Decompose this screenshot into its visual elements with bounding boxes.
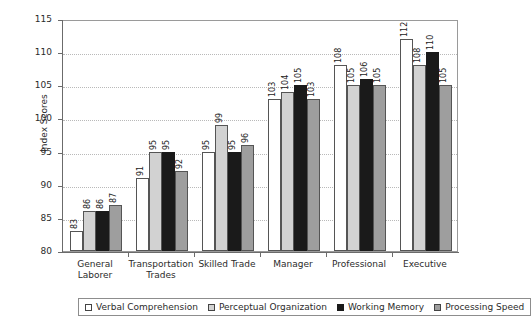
x-category-label: Transportation Trades xyxy=(128,259,194,281)
y-tick-label: 110 xyxy=(22,48,52,57)
bar-value-label: 105 xyxy=(295,68,303,83)
x-category-label: Manager xyxy=(260,259,326,270)
bar[interactable] xyxy=(228,152,241,251)
x-tick-mark xyxy=(392,252,393,257)
bar-group: 83868687 xyxy=(70,19,122,251)
y-tick-mark xyxy=(58,186,62,187)
y-tick-mark xyxy=(58,53,62,54)
gridline xyxy=(63,220,457,221)
bar-value-label: 103 xyxy=(308,81,316,96)
bar-value-label: 106 xyxy=(361,61,369,76)
bar[interactable] xyxy=(334,65,347,251)
bar[interactable] xyxy=(426,52,439,251)
x-category-label: Executive xyxy=(392,259,458,270)
legend-label: Working Memory xyxy=(348,302,424,312)
bar[interactable] xyxy=(400,39,413,251)
bar[interactable] xyxy=(162,152,175,251)
bar-value-label: 96 xyxy=(242,133,250,143)
bar[interactable] xyxy=(149,152,162,251)
bar[interactable] xyxy=(215,125,228,251)
bar-value-label: 99 xyxy=(216,113,224,123)
bar-value-label: 95 xyxy=(229,139,237,149)
bar[interactable] xyxy=(268,99,281,251)
bar-value-label: 103 xyxy=(269,81,277,96)
legend-item[interactable]: Verbal Comprehension xyxy=(85,302,198,312)
bar-value-label: 110 xyxy=(427,35,435,50)
bar[interactable] xyxy=(307,99,320,251)
bar-value-label: 105 xyxy=(374,68,382,83)
bar-value-label: 86 xyxy=(97,199,105,209)
y-tick-label: 100 xyxy=(22,114,52,123)
bar[interactable] xyxy=(136,178,149,251)
bar-value-label: 105 xyxy=(440,68,448,83)
bar[interactable] xyxy=(360,79,373,251)
gridline xyxy=(63,187,457,188)
bar[interactable] xyxy=(175,171,188,251)
bar-value-label: 108 xyxy=(414,48,422,63)
legend-label: Perceptual Organization xyxy=(219,302,327,312)
y-axis-line xyxy=(62,20,63,253)
x-category-label: Professional xyxy=(326,259,392,270)
bar-value-label: 87 xyxy=(110,192,118,202)
bar[interactable] xyxy=(373,85,386,251)
y-tick-mark xyxy=(58,153,62,154)
legend-swatch-icon xyxy=(208,304,215,311)
bar-value-label: 104 xyxy=(282,75,290,90)
bar-group: 112108110105 xyxy=(400,19,452,251)
bar-value-label: 95 xyxy=(203,139,211,149)
bar-value-label: 83 xyxy=(71,219,79,229)
legend-label: Processing Speed xyxy=(445,302,524,312)
x-tick-mark xyxy=(128,252,129,257)
y-tick-label: 85 xyxy=(22,214,52,223)
bar-value-label: 112 xyxy=(401,22,409,37)
y-tick-label: 95 xyxy=(22,148,52,157)
y-tick-label: 115 xyxy=(22,15,52,24)
legend-item[interactable]: Perceptual Organization xyxy=(208,302,327,312)
chart-legend: Verbal ComprehensionPerceptual Organizat… xyxy=(78,298,531,316)
bar-value-label: 92 xyxy=(176,159,184,169)
y-tick-label: 80 xyxy=(22,247,52,256)
bar[interactable] xyxy=(439,85,452,251)
bar[interactable] xyxy=(96,211,109,251)
x-tick-mark xyxy=(326,252,327,257)
gridline xyxy=(63,87,457,88)
bar-value-label: 91 xyxy=(137,166,145,176)
bar-value-label: 108 xyxy=(335,48,343,63)
x-category-label: Skilled Trade xyxy=(194,259,260,270)
y-tick-mark xyxy=(58,86,62,87)
legend-swatch-icon xyxy=(434,304,441,311)
bar[interactable] xyxy=(70,231,83,251)
y-tick-mark xyxy=(58,219,62,220)
y-tick-label: 90 xyxy=(22,181,52,190)
bar-group: 108105106105 xyxy=(334,19,386,251)
y-tick-mark xyxy=(58,20,62,21)
x-tick-mark xyxy=(260,252,261,257)
bar[interactable] xyxy=(281,92,294,251)
gridline xyxy=(63,120,457,121)
y-tick-label: 105 xyxy=(22,81,52,90)
bar[interactable] xyxy=(202,152,215,251)
bar-group: 95999596 xyxy=(202,19,254,251)
bar[interactable] xyxy=(83,211,96,251)
y-tick-mark xyxy=(58,252,62,253)
bar[interactable] xyxy=(413,65,426,251)
plot-area: 8386868791959592959995961031041051031081… xyxy=(62,20,458,252)
x-category-label: General Laborer xyxy=(62,259,128,281)
bar-group: 103104105103 xyxy=(268,19,320,251)
legend-label: Verbal Comprehension xyxy=(96,302,198,312)
legend-item[interactable]: Working Memory xyxy=(337,302,424,312)
legend-item[interactable]: Processing Speed xyxy=(434,302,524,312)
bar[interactable] xyxy=(294,85,307,251)
legend-swatch-icon xyxy=(337,304,344,311)
gridline xyxy=(63,154,457,155)
bar[interactable] xyxy=(347,85,360,251)
gridline xyxy=(63,54,457,55)
bar-value-label: 95 xyxy=(150,139,158,149)
y-tick-mark xyxy=(58,119,62,120)
bar[interactable] xyxy=(109,205,122,251)
bar[interactable] xyxy=(241,145,254,251)
bar-value-label: 86 xyxy=(84,199,92,209)
bar-value-label: 105 xyxy=(348,68,356,83)
bar-value-label: 95 xyxy=(163,139,171,149)
